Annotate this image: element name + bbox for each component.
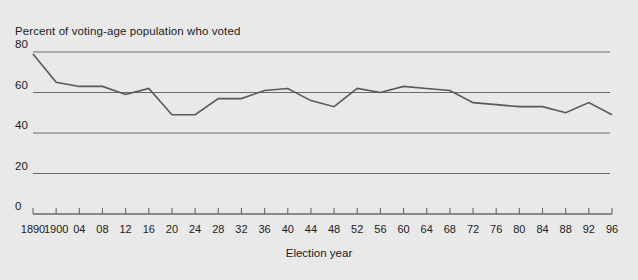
xtick-label: 20 [166,223,178,235]
voter-turnout-chart: Percent of voting-age population who vot… [0,0,638,280]
xtick-label: 40 [282,223,294,235]
xtick-label: 1890 [21,223,45,235]
xtick-label: 68 [444,223,456,235]
xtick-label: 44 [305,223,317,235]
xtick-label: 32 [235,223,247,235]
xtick-label: 92 [583,223,595,235]
gridlines-group [33,52,612,214]
xtick-label: 72 [467,223,479,235]
xtick-label: 36 [258,223,270,235]
xtick-label: 96 [606,223,618,235]
xtick-label: 64 [421,223,433,235]
ytick-label: 40 [15,119,28,131]
xtick-label: 76 [490,223,502,235]
xtick-label: 24 [189,223,201,235]
xtick-label: 52 [351,223,363,235]
xtick-label: 1900 [44,223,68,235]
xtick-label: 80 [513,223,525,235]
xtick-label: 08 [96,223,108,235]
xtick-marks-group [33,208,612,214]
x-axis-label: Election year [0,247,638,259]
xtick-label: 04 [73,223,85,235]
ytick-label: 80 [15,38,28,50]
ytick-label: 0 [15,200,21,212]
ytick-label: 60 [15,79,28,91]
xtick-label: 16 [143,223,155,235]
xtick-label: 28 [212,223,224,235]
xtick-label: 56 [374,223,386,235]
xtick-label: 12 [120,223,132,235]
xtick-label: 84 [536,223,548,235]
turnout-line-series [33,54,612,115]
xtick-label: 48 [328,223,340,235]
ytick-label: 20 [15,160,28,172]
xtick-label: 88 [560,223,572,235]
xtick-label: 60 [397,223,409,235]
chart-plot-area [0,0,638,280]
